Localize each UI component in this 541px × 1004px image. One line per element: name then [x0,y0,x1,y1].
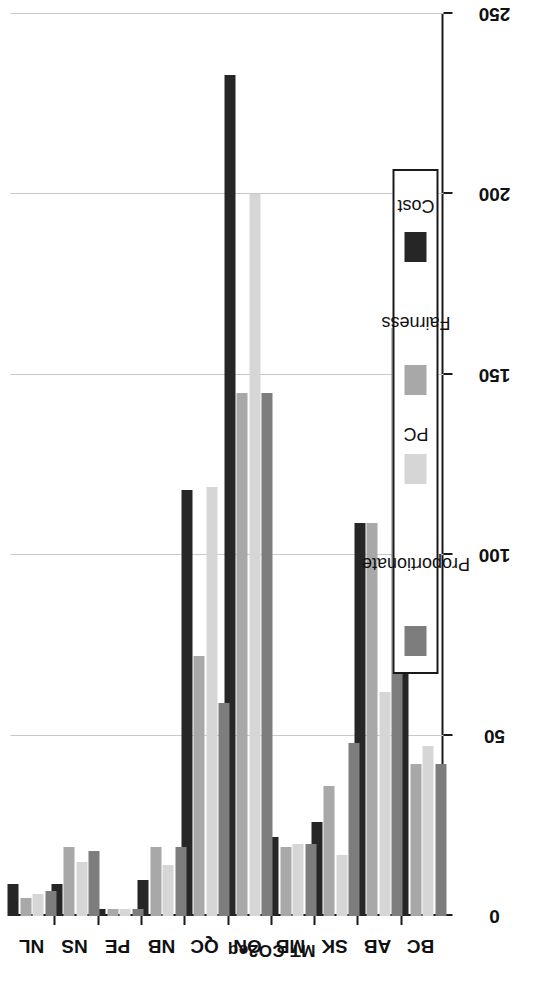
legend-swatch-fairness [404,365,426,395]
bar [7,884,18,916]
bar [45,891,56,916]
y-tick-label: 250 [478,3,510,25]
bar [348,743,359,916]
bar [132,909,143,916]
legend-label: Fairness [380,312,449,333]
y-tick-label: 50 [483,725,504,747]
y-tick-label: 150 [478,364,510,386]
bar [88,851,99,916]
category-tick [270,916,272,925]
legend-swatch-proportionate [404,626,426,656]
category-tick [53,916,55,925]
category-tick [227,916,229,925]
bar-chart: MT CO2eq 050100150200250 BCABSKMBONQCNBP… [0,0,541,1004]
category-tick [400,916,402,925]
bar [366,523,377,916]
y-tick-label: 100 [478,544,510,566]
bar [261,393,272,916]
legend-swatch-pc [404,454,426,484]
bar-group [51,14,100,916]
bar-group [181,14,230,916]
category-label-ab: AB [355,935,399,957]
bar-group [7,14,56,916]
category-label-sk: SK [312,935,356,957]
y-tick-label: 200 [478,183,510,205]
legend-label: Proportionate [361,553,469,574]
category-label-pe: PE [95,935,139,957]
bar [422,746,433,916]
category-tick [140,916,142,925]
category-label-nb: NB [139,935,183,957]
bar-group [137,14,186,916]
bar [323,786,334,916]
bar [206,487,217,916]
bar [292,844,303,916]
legend-item-fairness: Fairness [404,288,426,395]
category-label-mb: MB [268,935,312,957]
category-label-qc: QC [182,935,226,957]
bar [175,847,186,916]
bar [107,909,118,916]
bar [249,194,260,916]
bar [236,393,247,916]
bar [20,898,31,916]
legend-label: Cost [396,195,433,216]
category-tick [97,916,99,925]
bar [162,866,173,917]
bar [435,764,446,916]
bar [63,847,74,916]
bar [218,703,229,916]
category-tick [313,916,315,925]
bar [305,844,316,916]
legend-label: PC [402,423,427,444]
bar [150,847,161,916]
y-tick-label: 0 [489,905,500,927]
legend-item-cost: Cost [404,187,426,262]
bar-group [94,14,143,916]
bar [379,692,390,916]
category-tick [183,916,185,925]
bar [410,764,421,916]
bar [32,894,43,916]
category-label-on: ON [225,935,269,957]
plot-area: 050100150200250 BCABSKMBONQCNBPENSNL [10,14,443,916]
category-label-nl: NL [9,935,53,957]
bar-group [311,14,360,916]
bar [336,855,347,916]
bar [76,862,87,916]
bar [193,656,204,916]
bar-group [267,14,316,916]
chart-legend: ProportionatePCFairnessCost [392,169,438,674]
category-label-bc: BC [398,935,442,957]
legend-item-pc: PC [404,421,426,484]
bar-group [224,14,273,916]
category-tick [356,916,358,925]
rotated-chart-wrapper: MT CO2eq 050100150200250 BCABSKMBONQCNBP… [0,0,541,1004]
bar [280,847,291,916]
category-label-ns: NS [52,935,96,957]
bar [119,909,130,916]
legend-swatch-cost [404,232,426,262]
legend-item-proportionate: Proportionate [404,510,426,656]
